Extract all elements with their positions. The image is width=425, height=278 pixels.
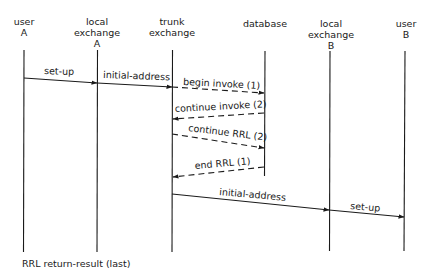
message-label: set-up [350,200,381,214]
sequence-diagram: set-up initial-address begin invoke (1) … [0,0,425,278]
message-label: initial-address [103,69,170,82]
legend-note: RRL return-result (last) [22,258,130,269]
lifeline-user-b [404,51,405,251]
arrow-continue-invoke [173,113,264,119]
message-label: end RRL (1) [194,155,251,171]
lifeline-user-a [24,50,25,252]
lifeline-local-exchange-a [97,50,98,252]
arrow-set-up-a [24,78,97,83]
lifeline-trunk-exchange [172,50,173,252]
lifeline-database [265,51,266,176]
message-label: continue invoke (2) [175,98,267,114]
arrow-initial-address-a [97,83,172,87]
message-label: continue RRL (2) [188,122,268,143]
lifeline-local-exchange-b [330,51,331,251]
message-label: set-up [44,65,74,77]
